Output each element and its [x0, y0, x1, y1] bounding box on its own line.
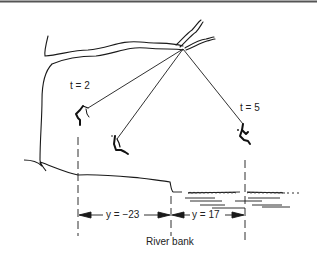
swinger-t5-icon — [237, 124, 250, 144]
time-label-t5: t = 5 — [240, 103, 260, 113]
ground-line — [40, 162, 173, 192]
rope-swing-diagram: t = 2 t = 5 y = −23 y = 17 River bank — [0, 0, 317, 261]
rope-t2 — [88, 49, 183, 108]
swinger-t2-icon — [76, 106, 89, 125]
diagram-canvas — [0, 0, 317, 261]
tree-trunk — [24, 64, 52, 171]
arrowhead-right — [158, 212, 170, 218]
displacement-label-left: y = −23 — [105, 210, 140, 220]
rope-t5 — [183, 49, 243, 124]
ropes — [88, 49, 243, 139]
rope-middle — [117, 49, 183, 139]
arrowhead-left — [79, 212, 91, 218]
arrowhead-right — [232, 212, 244, 218]
arrowhead-left — [172, 212, 184, 218]
river-bank-label: River bank — [146, 237, 194, 247]
swinger-middle-icon — [111, 135, 128, 154]
displacement-label-right: y = 17 — [191, 210, 221, 220]
reference-lines — [78, 137, 245, 240]
time-label-t2: t = 2 — [70, 81, 90, 91]
river-water — [173, 192, 299, 208]
